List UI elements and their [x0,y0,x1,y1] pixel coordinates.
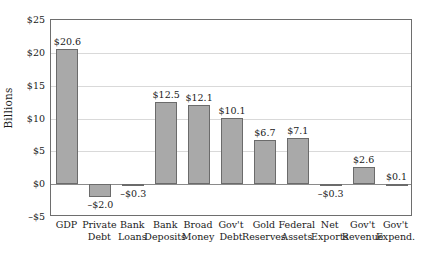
bar-value-label: $12.5 [153,89,180,100]
y-tick-label: $20 [27,46,45,57]
y-tick-label: $5 [33,145,45,156]
bar[interactable] [254,140,276,184]
bar[interactable] [287,138,309,185]
bar-slot: –$2.0 [84,20,117,215]
bar[interactable] [155,102,177,184]
bar-slot: $7.1 [281,20,314,215]
bar-value-label: $2.6 [353,154,374,165]
y-axis-title: Billions [0,0,16,216]
bar-value-label: $10.1 [218,105,245,116]
bar-value-label: –$2.0 [87,199,113,210]
bar[interactable] [122,184,144,186]
bar[interactable] [353,167,375,184]
bar-slot: –$0.3 [117,20,150,215]
bar-slot: $6.7 [248,20,281,215]
bar-slot: $10.1 [216,20,249,215]
x-axis-category-labels: GDPPrivate DebtBank LoansBank DepositsBr… [50,219,412,257]
bar-slot: $12.1 [183,20,216,215]
bar-slot: $20.6 [51,20,84,215]
bar[interactable] [188,105,210,184]
bar-value-label: $0.1 [386,171,407,182]
bar-slot: $0.1 [380,20,413,215]
bar-slot: $12.5 [150,20,183,215]
bar[interactable] [89,184,111,197]
bar-value-label: $7.1 [287,125,308,136]
bars-layer: $20.6–$2.0–$0.3$12.5$12.1$10.1$6.7$7.1–$… [51,20,411,215]
y-tick-label: $25 [27,14,45,25]
y-axis-tick-labels: $25$20$15$10$5$0–$5 [16,0,48,220]
plot-area: $20.6–$2.0–$0.3$12.5$12.1$10.1$6.7$7.1–$… [50,19,412,216]
bar-value-label: –$0.3 [120,188,146,199]
bar[interactable] [320,184,342,186]
bar-slot: –$0.3 [314,20,347,215]
x-category-label: Gov't Expend. [373,219,419,242]
bar-slot: $2.6 [347,20,380,215]
bar[interactable] [221,118,243,184]
bar[interactable] [56,49,78,184]
bar-value-label: $6.7 [254,127,275,138]
bar-value-label: $12.1 [185,92,212,103]
y-tick-label: $10 [27,112,45,123]
bar[interactable] [386,184,408,186]
bar-value-label: –$0.3 [318,188,344,199]
y-tick-label: $15 [27,79,45,90]
y-tick-label: $0 [33,178,45,189]
bar-chart: Billions $25$20$15$10$5$0–$5 $20.6–$2.0–… [0,0,426,257]
y-axis-title-text: Billions [2,87,14,128]
bar-value-label: $20.6 [54,36,81,47]
